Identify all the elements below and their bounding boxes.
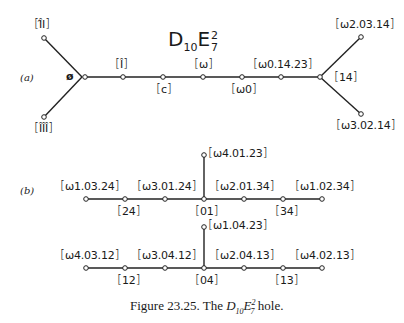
node-label-b2-above-2: ω3.04.12 <box>137 248 196 262</box>
node-label-a-2: c <box>156 82 172 96</box>
node-label-b2-above-1: ω4.03.12 <box>60 248 119 262</box>
node-label-right-upper: ω2.03.14 <box>335 17 394 31</box>
node-label-b1-below-1: 24 <box>117 204 140 218</box>
node-label-left-upper: Î̂I <box>34 17 50 31</box>
node-label-a-4: ω0 <box>231 82 257 96</box>
part-b-label: (b) <box>20 185 34 196</box>
node-label-b2-above-4: ω4.02.13 <box>295 248 354 262</box>
diagram-title: D10E27 <box>168 28 220 59</box>
node-label-b2-above-3: ω2.04.13 <box>215 248 274 262</box>
node-label-b1-above-3: ω2.01.34 <box>215 179 274 193</box>
node-label-a-5: ω0.14.23 <box>253 57 312 71</box>
node-label-right-lower: ω3.02.14 <box>336 118 395 132</box>
node-label-b1-above-2: ω3.01.24 <box>137 179 196 193</box>
node-label-b1-below-3: 34 <box>275 204 298 218</box>
junction-empty-label: ø <box>66 70 73 83</box>
node-label-a-3: ω <box>194 57 213 71</box>
node-label-b2-below-3: 13 <box>275 273 298 287</box>
node-label-b1-above-4: ω1.02.34 <box>295 179 354 193</box>
node-label-b2-top: ω1.04.23 <box>208 218 267 232</box>
node-label-b2-below-1: 12 <box>117 273 140 287</box>
node-label-a-1: Î <box>115 57 128 71</box>
node-label-b1-top: ω4.01.23 <box>208 146 267 160</box>
part-a-label: (a) <box>20 72 34 83</box>
node-label-right-junction: 14 <box>334 70 357 84</box>
node-label-left-lower: ÎÎÎ <box>34 121 53 135</box>
title-d-subscript: 10 <box>183 41 197 54</box>
node-label-b1-below-2: 01 <box>195 204 218 218</box>
title-e: E <box>197 27 210 51</box>
node-label-b1-above-1: ω1.03.24 <box>60 179 119 193</box>
node-label-b2-below-2: 04 <box>195 273 218 287</box>
figure-caption: Figure 23.25. The D10E27 hole. <box>130 298 283 316</box>
title-d: D <box>168 27 183 51</box>
